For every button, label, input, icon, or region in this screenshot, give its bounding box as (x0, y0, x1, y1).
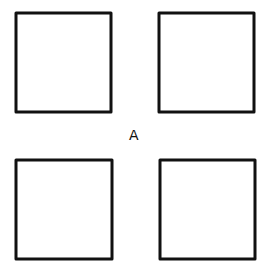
square-bottom-left (16, 160, 112, 259)
square-top-left (16, 13, 111, 112)
square-bottom-right (160, 160, 255, 259)
square-top-right (159, 13, 254, 112)
center-label: A (129, 127, 139, 143)
